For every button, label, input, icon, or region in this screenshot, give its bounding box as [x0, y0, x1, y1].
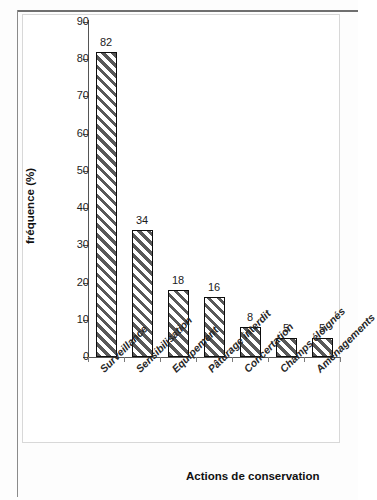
x-axis-tick-mark — [124, 357, 125, 362]
bar-value-label: 34 — [122, 215, 162, 226]
x-axis-tick-mark — [232, 357, 233, 362]
y-axis-tick-label: 10 — [63, 314, 89, 325]
y-axis-line — [88, 20, 89, 359]
bar-value-label: 82 — [86, 37, 126, 48]
x-axis-title: Actions de conservation — [186, 470, 320, 482]
bar-value-label: 16 — [194, 282, 234, 293]
y-axis-tick-label: 50 — [63, 165, 89, 176]
page-frame-top-border — [17, 10, 358, 12]
y-axis-tick-label: 70 — [63, 90, 89, 101]
y-axis-tick-label: 40 — [63, 202, 89, 213]
x-axis-tick-mark — [304, 357, 305, 362]
x-axis-tick-mark — [196, 357, 197, 362]
y-axis-tick-label: 80 — [63, 53, 89, 64]
page-frame-left-border — [17, 10, 18, 497]
y-axis-title: fréquence (%) — [24, 146, 36, 266]
y-axis-tick-label: 30 — [63, 239, 89, 250]
x-axis-tick-mark — [88, 357, 89, 362]
x-axis-tick-mark — [340, 357, 341, 362]
bar — [96, 52, 117, 357]
x-axis-tick-mark — [268, 357, 269, 362]
y-axis-tick-label: 20 — [63, 277, 89, 288]
x-axis-tick-mark — [160, 357, 161, 362]
y-axis-tick-label: 90 — [63, 16, 89, 27]
y-axis-tick-label: 0 — [63, 351, 89, 362]
y-axis-tick-label: 60 — [63, 128, 89, 139]
plot-area-frame — [22, 14, 340, 443]
bar-value-label: 18 — [158, 275, 198, 286]
